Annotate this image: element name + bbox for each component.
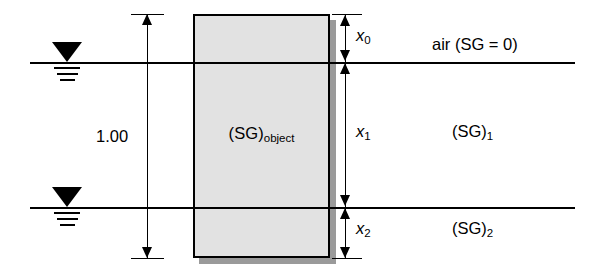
x1-label-main: x [356,122,364,140]
total-dim-tick-bottom [131,258,164,259]
hatch-line [54,212,80,214]
x2-arrow-up [340,208,350,219]
hatch-line [54,67,80,69]
x1-arrow-down [340,195,350,206]
fluid-2-layer-label: (SG)2 [452,219,493,239]
object-label-main: (SG) [229,124,264,142]
hatch-line [57,73,78,75]
total-dim-arrow-up [142,14,152,25]
fluid-1-layer-label: (SG)1 [452,122,493,142]
lower-interface-line [30,207,575,209]
object-label-subscript: object [264,132,295,144]
free-surface-triangle-icon [52,187,82,207]
x0-arrow-down [340,50,350,61]
fluid-2-label-main: (SG) [452,219,487,237]
total-dim-arrow-down [142,247,152,258]
hatch-line [60,224,75,226]
x1-arrow-up [340,63,350,74]
hatch-line [57,218,78,220]
free-surface-triangle-icon [52,42,82,62]
x1-label-subscript: 1 [364,130,370,142]
x1-dim-line [345,62,346,207]
air-layer-label-main: air (SG = 0) [432,35,518,53]
fluid-1-label-subscript: 1 [487,130,493,142]
x0-arrow-up [340,15,350,26]
object-block-label: (SG)object [193,124,330,144]
x2-label-subscript: 2 [364,227,370,239]
total-dim-line [147,14,148,258]
fluid-2-label-subscript: 2 [487,227,493,239]
x0-label-subscript: 0 [364,34,370,46]
hatch-line [60,79,75,81]
air-layer-label: air (SG = 0) [432,35,518,54]
x2-label-main: x [356,219,364,237]
diagram-canvas: (SG)object 1.00 x0 x1 x2 air (SG = 0) (S… [0,0,590,276]
fluid-1-label-main: (SG) [452,122,487,140]
x2-dim-label: x2 [356,219,371,239]
x2-arrow-down [340,247,350,258]
x1-dim-label: x1 [356,122,371,142]
total-dim-label: 1.00 [96,127,128,146]
x0-dim-label: x0 [356,26,371,46]
upper-free-surface-line [30,62,575,64]
x2-tick-bottom [332,258,362,259]
x0-label-main: x [356,26,364,44]
